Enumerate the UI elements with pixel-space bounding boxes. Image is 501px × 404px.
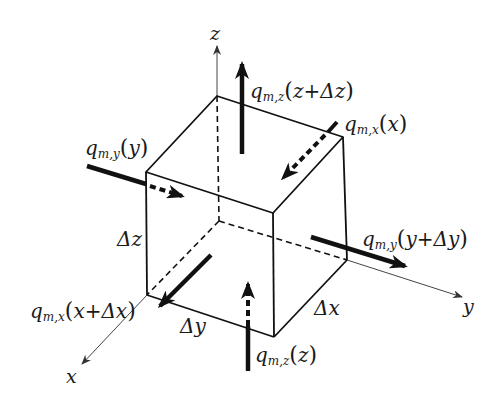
y-axis-label: y — [462, 295, 474, 317]
dz-label: Δz — [116, 227, 142, 251]
dx-label: Δx — [313, 296, 340, 320]
x-axis-label: x — [66, 365, 77, 387]
arrow-qmx-in-solid — [328, 122, 337, 132]
arrow-qmx-in-dashed — [283, 135, 325, 178]
flux-arrows — [87, 64, 405, 371]
dy-label: Δy — [179, 314, 206, 338]
arrow-qmy-in-solid — [87, 166, 146, 184]
arrow-qmx-out — [160, 255, 211, 306]
z-axis-label: z — [209, 22, 221, 44]
label-qmx-out: qm,x(x+Δx) — [30, 298, 136, 324]
label-qmy-out: qm,y(y+Δy) — [362, 226, 468, 252]
cube-diagram: z x y Δz Δy Δx qm,z(z+Δz) qm,x(x) qm,y(y… — [0, 0, 501, 404]
cube-hidden-edges — [147, 96, 347, 295]
label-qmz-out: qm,z(z+Δz) — [250, 78, 354, 104]
label-qmz-in: qm,z(z) — [255, 342, 317, 368]
label-qmx-in: qm,x(x) — [344, 111, 407, 137]
label-qmy-in: qm,y(y) — [85, 135, 148, 161]
arrow-qmy-in-dashed — [150, 186, 182, 196]
